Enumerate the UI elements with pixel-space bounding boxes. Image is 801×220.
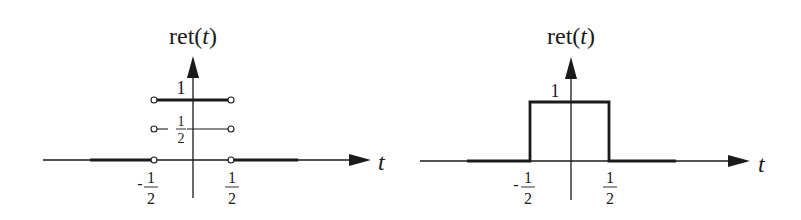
open-circle-icon — [151, 157, 157, 163]
left-tick-pos-half: 1 2 — [225, 169, 239, 207]
left-tick-neg-half: - 1 2 — [137, 169, 158, 207]
svg-text:1: 1 — [524, 169, 532, 186]
left-x-axis-arrow-icon — [349, 154, 371, 166]
svg-text:-: - — [137, 175, 142, 192]
right-x-axis-arrow-icon — [728, 155, 750, 167]
left-level-half-label: 1 2 — [176, 114, 186, 146]
svg-text:1: 1 — [147, 169, 155, 186]
left-title: ret(t) — [169, 23, 217, 49]
open-circle-icon — [151, 126, 157, 132]
svg-text:2: 2 — [147, 190, 155, 207]
right-level-one-label: 1 — [551, 81, 560, 101]
open-circle-icon — [151, 97, 157, 103]
open-circle-icon — [228, 97, 234, 103]
right-y-axis-arrow-icon — [565, 57, 577, 79]
svg-text:2: 2 — [524, 190, 532, 207]
svg-text:1: 1 — [606, 169, 614, 186]
right-tick-neg-half: - 1 2 — [513, 169, 535, 207]
left-y-axis-arrow-icon — [187, 56, 199, 78]
svg-text:2: 2 — [178, 131, 185, 146]
right-title: ret(t) — [547, 23, 595, 49]
right-x-axis-label: t — [758, 151, 766, 177]
open-circle-icon — [228, 126, 234, 132]
svg-text:2: 2 — [606, 190, 614, 207]
left-x-axis-label: t — [378, 149, 386, 175]
svg-text:-: - — [513, 176, 518, 193]
open-circle-icon — [228, 157, 234, 163]
svg-text:1: 1 — [228, 169, 236, 186]
svg-text:2: 2 — [228, 190, 236, 207]
right-diagram: ret(t) t 1 - 1 2 1 2 — [420, 23, 766, 207]
figure-canvas: ret(t) t 1 1 2 - 1 — [0, 0, 801, 220]
right-tick-pos-half: 1 2 — [603, 169, 617, 207]
svg-text:1: 1 — [178, 114, 185, 129]
left-level-one-label: 1 — [177, 78, 186, 98]
left-diagram: ret(t) t 1 1 2 - 1 — [43, 23, 386, 207]
